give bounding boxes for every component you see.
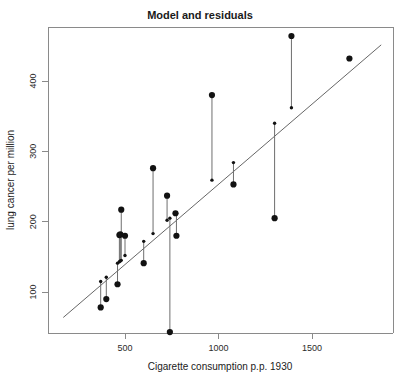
fitted-value-point <box>232 161 235 164</box>
fitted-value-point <box>273 122 276 125</box>
y-tick-label: 300 <box>28 144 38 159</box>
chart-figure: Model and residuals 50010001500 10020030… <box>0 0 401 374</box>
data-point <box>172 210 178 216</box>
figure-background <box>0 0 401 374</box>
data-point <box>98 304 104 310</box>
data-point <box>164 193 170 199</box>
y-tick-label: 400 <box>28 73 38 88</box>
fitted-value-point <box>142 240 145 243</box>
data-point <box>346 55 352 61</box>
data-point <box>114 281 120 287</box>
data-point <box>272 215 278 221</box>
fitted-value-point <box>105 276 108 279</box>
y-tick-label: 200 <box>28 214 38 229</box>
data-point <box>103 296 109 302</box>
data-point <box>230 181 236 187</box>
fitted-value-point <box>99 280 102 283</box>
data-point <box>288 33 294 39</box>
data-point <box>150 165 156 171</box>
fitted-value-point <box>290 106 293 109</box>
fitted-value-point <box>165 219 168 222</box>
chart-title: Model and residuals <box>147 9 253 21</box>
x-tick-label: 1500 <box>302 343 322 353</box>
y-tick-label: 100 <box>28 284 38 299</box>
x-axis-title: Cigarette consumption p.p. 1930 <box>148 361 293 372</box>
x-tick-label: 1000 <box>208 343 228 353</box>
fitted-value-point <box>123 254 126 257</box>
fitted-value-point <box>151 232 154 235</box>
data-point <box>122 233 128 239</box>
fitted-value-point <box>168 216 171 219</box>
fitted-value-point <box>210 178 213 181</box>
x-tick-label: 500 <box>117 343 132 353</box>
data-point <box>173 233 179 239</box>
fitted-value-point <box>120 259 123 262</box>
y-axis-title: lung cancer per million <box>5 130 16 230</box>
data-point <box>167 329 173 335</box>
data-point <box>118 207 124 213</box>
data-point <box>209 92 215 98</box>
data-point <box>141 260 147 266</box>
